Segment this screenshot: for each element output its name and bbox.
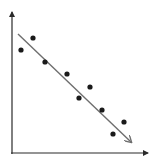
data-point [42, 59, 47, 64]
data-point [87, 84, 92, 89]
data-point [64, 71, 69, 76]
scatter-chart [0, 0, 153, 158]
data-point [99, 107, 104, 112]
trend-line-arrow [18, 34, 131, 142]
data-point [30, 35, 35, 40]
data-point [76, 95, 81, 100]
data-point [18, 47, 23, 52]
data-point [110, 131, 115, 136]
data-point [121, 119, 126, 124]
